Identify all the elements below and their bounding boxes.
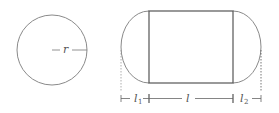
radius-label: r: [63, 43, 69, 56]
left-cap-arc: [121, 11, 149, 83]
capsule-figure: l 1 l l 2: [121, 11, 261, 106]
circle-figure: r: [17, 15, 87, 85]
label-l2-subscript: 2: [244, 98, 248, 106]
label-l: l: [186, 92, 190, 105]
diagram-canvas: r l 1 l l 2: [0, 0, 279, 113]
label-l1-subscript: 1: [138, 98, 142, 106]
center-rectangle: [149, 11, 233, 83]
right-cap-arc: [233, 11, 261, 83]
